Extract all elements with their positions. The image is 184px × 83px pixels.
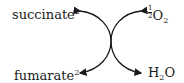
water-label: H2O: [148, 66, 175, 83]
fumarate-label: fumarate2−: [14, 66, 86, 82]
succinate-label: succinate2−: [12, 5, 87, 21]
half-oxygen-label: 12O2: [148, 5, 168, 27]
right-arc-arrow: [111, 11, 141, 73]
